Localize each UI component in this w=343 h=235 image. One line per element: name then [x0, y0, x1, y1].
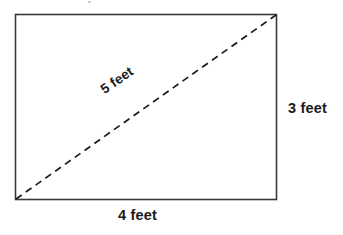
height-length-label: 3 feet: [288, 101, 327, 116]
rectangle-diagonal-svg: [0, 0, 343, 235]
diagram-canvas: 5 feet 3 feet 4 feet: [0, 0, 343, 235]
width-length-label: 4 feet: [118, 208, 157, 223]
scan-speck-artifact: [88, 1, 91, 3]
